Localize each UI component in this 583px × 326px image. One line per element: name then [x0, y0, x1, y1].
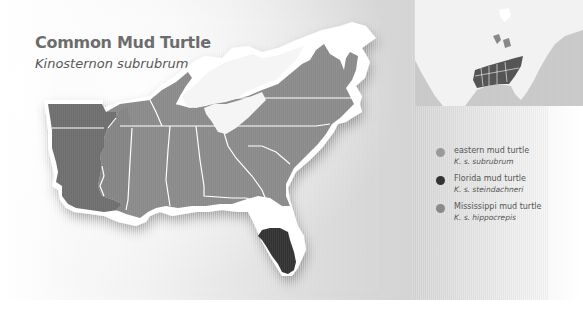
- legend-common-name: Florida mud turtle: [454, 174, 526, 183]
- legend-common-name: Mississippi mud turtle: [454, 202, 541, 211]
- legend-swatch-eastern: [436, 148, 445, 157]
- legend-scientific-name: K. s. steindachneri: [454, 185, 523, 194]
- legend-swatch-florida: [436, 176, 445, 185]
- locator-inset-map: [415, 0, 583, 106]
- legend-scientific-name: K. s. subrubrum: [454, 157, 514, 166]
- legend-common-name: eastern mud turtle: [454, 146, 529, 155]
- inset-svg: [415, 0, 583, 106]
- legend-swatch-mississippi: [436, 204, 445, 213]
- legend-scientific-name: K. s. hippocrepis: [454, 213, 516, 222]
